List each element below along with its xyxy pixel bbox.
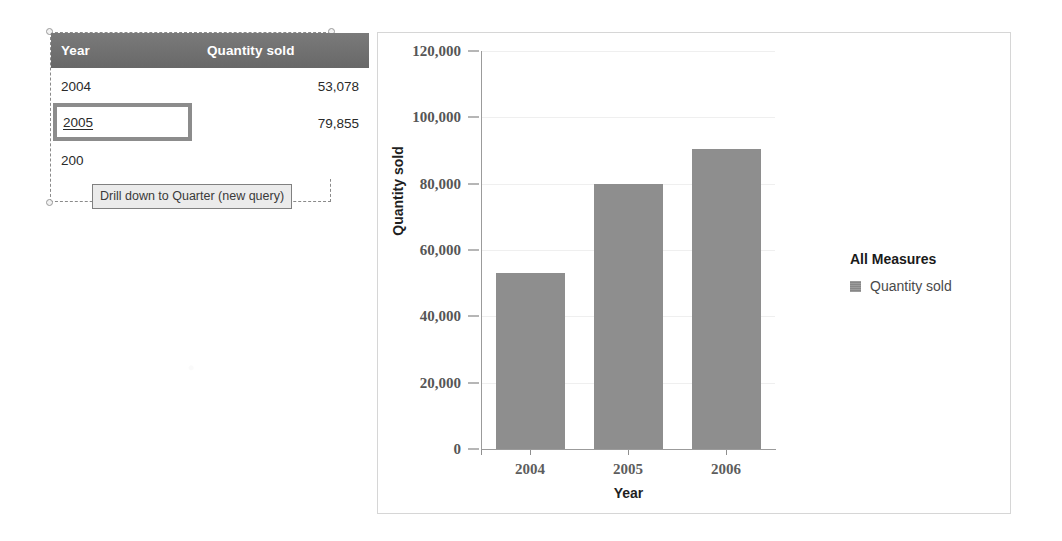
table-row: 2004 53,078 (51, 68, 369, 105)
x-axis-origin-tickmark (481, 450, 482, 455)
bar-2004[interactable] (496, 273, 565, 449)
drill-down-tooltip: Drill down to Quarter (new query) (92, 184, 292, 209)
cell-quantity-2005: 79,855 (197, 105, 369, 142)
cell-quantity-2006 (197, 142, 369, 179)
table-row: 200 (51, 142, 369, 179)
crosstab-table: Year Quantity sold 2004 53,078 2005 79,8… (51, 33, 369, 179)
x-axis-tickmark (530, 450, 531, 455)
table-row: 2005 79,855 (51, 105, 369, 142)
x-axis-tick-label: 2006 (711, 461, 741, 478)
legend-title: All Measures (850, 251, 1050, 267)
gridline (482, 51, 775, 52)
cell-year-2004[interactable]: 2004 (51, 68, 197, 105)
y-axis-tick-label: 80,000 (420, 175, 479, 192)
y-axis-tick-label: 0 (454, 441, 480, 458)
column-header-year[interactable]: Year (51, 33, 197, 68)
crosstab-object[interactable]: Year Quantity sold 2004 53,078 2005 79,8… (50, 32, 331, 202)
legend-swatch-icon (850, 281, 861, 292)
y-axis-tick-label: 40,000 (420, 308, 479, 325)
cell-quantity-2004: 53,078 (197, 68, 369, 105)
y-axis-tick-label: 20,000 (420, 374, 479, 391)
gridline (482, 117, 775, 118)
cell-year-2005[interactable]: 2005 (51, 105, 197, 142)
selection-handle-bottom-left[interactable] (46, 199, 53, 206)
legend-item-label: Quantity sold (870, 278, 952, 294)
drill-down-link-2005[interactable]: 2005 (63, 115, 93, 130)
table-header-row: Year Quantity sold (51, 33, 369, 68)
legend-item[interactable]: Quantity sold (850, 278, 1050, 294)
bar-2006[interactable] (692, 149, 761, 449)
x-axis-tickmark (726, 450, 727, 455)
chart-legend: All Measures Quantity sold (850, 251, 1050, 294)
x-axis-tickmark (628, 450, 629, 455)
bar-2005[interactable] (594, 184, 663, 449)
y-axis-title: Quantity sold (390, 111, 406, 271)
cell-year-2006[interactable]: 200 (51, 142, 197, 179)
x-axis-title: Year (481, 485, 776, 501)
y-axis-tick-label: 100,000 (412, 109, 479, 126)
y-axis-tick-label: 60,000 (420, 242, 479, 259)
x-axis-tick-label: 2004 (515, 461, 545, 478)
column-header-quantity-sold[interactable]: Quantity sold (197, 33, 369, 68)
x-axis-tick-label: 2005 (613, 461, 643, 478)
y-axis-tick-label: 120,000 (412, 43, 479, 60)
y-axis-ticks: 020,00040,00060,00080,000100,000120,000 (378, 33, 479, 515)
